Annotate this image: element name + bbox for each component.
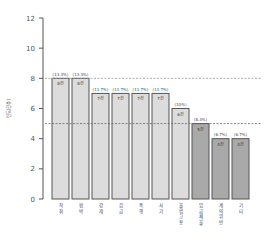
bar xyxy=(172,109,189,200)
bar-count-label: 8건 xyxy=(77,80,84,86)
x-category-label: 계약위반 xyxy=(219,202,223,225)
bar-count-label: 7건 xyxy=(137,95,144,101)
x-category-label: 기타 xyxy=(239,202,244,215)
x-category-label: 협박 xyxy=(79,202,83,215)
bar-percent-label: (11.7%) xyxy=(133,87,149,92)
bar-percent-label: (11.7%) xyxy=(113,87,129,92)
y-tick-label: 2 xyxy=(31,165,35,173)
bar-percent-label: (6.7%) xyxy=(234,132,248,137)
bar xyxy=(212,139,229,199)
bar-percent-label: (8.3%) xyxy=(194,117,208,122)
y-tick-label: 10 xyxy=(26,45,35,53)
bar-count-label: 7건 xyxy=(157,95,164,101)
x-category-label: 강제 xyxy=(99,202,103,215)
x-category-label: 착취 xyxy=(59,202,63,215)
x-category-label: 사기 xyxy=(159,202,164,215)
bar-percent-label: (11.7%) xyxy=(93,87,109,92)
bar-percent-label: (6.7%) xyxy=(214,132,228,137)
bar-count-label: 4건 xyxy=(217,141,224,147)
bar xyxy=(232,139,249,199)
x-category-label: 불법고용 xyxy=(179,202,183,225)
bar-chart: 024681012빈도(건수)(13.3%)8건착취(13.3%)8건협박(11… xyxy=(0,0,274,242)
bar-percent-label: (11.7%) xyxy=(153,87,169,92)
bar-count-label: 7건 xyxy=(97,95,104,101)
bar-percent-label: (10%) xyxy=(174,102,186,107)
x-category-label: 폭행 xyxy=(139,203,143,214)
bar xyxy=(152,93,169,199)
bar xyxy=(92,93,109,199)
bar-percent-label: (13.3%) xyxy=(53,72,69,77)
y-tick-label: 12 xyxy=(26,15,35,23)
y-tick-label: 8 xyxy=(31,75,35,83)
bar-count-label: 4건 xyxy=(237,141,244,147)
bar-count-label: 6건 xyxy=(177,111,184,117)
y-tick-label: 4 xyxy=(31,135,36,143)
bar xyxy=(72,78,89,199)
bar xyxy=(132,93,149,199)
x-category-label: 감금 xyxy=(119,202,123,214)
bar xyxy=(192,124,209,199)
y-tick-label: 0 xyxy=(31,196,35,204)
bar xyxy=(52,78,69,199)
bar xyxy=(112,93,129,199)
bar-percent-label: (13.3%) xyxy=(73,72,89,77)
y-axis-label: 빈도(건수) xyxy=(5,99,12,119)
x-category-label: 임금체불 xyxy=(199,202,203,226)
bar-count-label: 7건 xyxy=(117,95,124,101)
y-tick-label: 6 xyxy=(31,105,36,113)
bar-count-label: 8건 xyxy=(57,80,64,86)
bar-count-label: 5건 xyxy=(197,126,204,132)
